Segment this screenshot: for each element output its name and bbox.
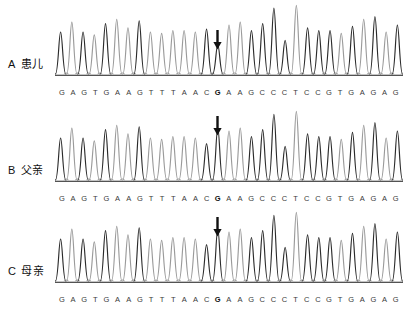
base-letter: C xyxy=(202,192,212,206)
panel-c-title: 母亲 xyxy=(21,265,44,278)
base-letter: A xyxy=(179,192,189,206)
chromatogram-panel-b: B父亲 GAGTGAAGTTTAACGAAGCCCTCCGTGAGAG xyxy=(0,106,416,212)
base-letter: T xyxy=(291,192,301,206)
base-letter: A xyxy=(235,86,245,100)
base-letter: T xyxy=(335,86,345,100)
base-letter: A xyxy=(124,192,134,206)
panel-c-label: C母亲 xyxy=(8,262,44,278)
base-letter: G xyxy=(135,192,145,206)
base-letter: G xyxy=(246,86,256,100)
base-letter: C xyxy=(268,86,278,100)
base-letter: A xyxy=(357,86,367,100)
base-letter: G xyxy=(213,293,223,307)
panel-a-title: 患儿 xyxy=(21,58,44,71)
base-letter: C xyxy=(302,293,312,307)
panel-a-letter: A xyxy=(8,58,16,70)
base-letter: G xyxy=(369,86,379,100)
panel-c-letter: C xyxy=(8,265,16,277)
base-letter: A xyxy=(224,86,234,100)
panel-c-base-sequence: GAGTGAAGTTTAACGAAGCCCTCCGTGAGAG xyxy=(55,293,403,307)
base-letter: G xyxy=(102,86,112,100)
base-letter: C xyxy=(280,192,290,206)
base-letter: A xyxy=(380,293,390,307)
base-letter: T xyxy=(168,86,178,100)
base-letter: C xyxy=(257,192,267,206)
base-letter: A xyxy=(357,192,367,206)
base-letter: G xyxy=(102,192,112,206)
base-letter: G xyxy=(346,293,356,307)
base-letter: G xyxy=(102,293,112,307)
base-letter: T xyxy=(168,192,178,206)
base-letter: C xyxy=(268,293,278,307)
base-letter: T xyxy=(146,293,156,307)
base-letter: T xyxy=(157,293,167,307)
base-letter: A xyxy=(68,192,78,206)
base-letter: C xyxy=(268,192,278,206)
base-letter: A xyxy=(179,293,189,307)
base-letter: A xyxy=(191,192,201,206)
base-letter: T xyxy=(90,86,100,100)
base-letter: A xyxy=(357,293,367,307)
panel-b-trace-svg xyxy=(55,106,403,186)
panel-c-trace xyxy=(55,207,403,287)
base-letter: A xyxy=(235,192,245,206)
base-letter: C xyxy=(280,86,290,100)
base-letter: A xyxy=(124,293,134,307)
base-letter: A xyxy=(224,293,234,307)
base-letter: A xyxy=(113,192,123,206)
panel-b-letter: B xyxy=(8,164,16,176)
base-letter: A xyxy=(68,293,78,307)
panel-a-trace xyxy=(55,0,403,80)
base-letter: C xyxy=(257,293,267,307)
base-letter: G xyxy=(246,293,256,307)
base-letter: T xyxy=(146,86,156,100)
panel-a-mutation-arrow-icon xyxy=(213,30,222,50)
base-letter: G xyxy=(391,86,401,100)
base-letter: G xyxy=(213,86,223,100)
panel-b-label: B父亲 xyxy=(8,161,44,177)
base-letter: G xyxy=(369,293,379,307)
base-letter: C xyxy=(313,192,323,206)
base-letter: G xyxy=(324,192,334,206)
base-letter: G xyxy=(135,293,145,307)
base-letter: G xyxy=(213,192,223,206)
base-letter: A xyxy=(224,192,234,206)
base-letter: C xyxy=(313,86,323,100)
base-letter: C xyxy=(313,293,323,307)
base-letter: A xyxy=(179,86,189,100)
panel-a-base-sequence: GAGTGAAGTTTAACGAAGCCCTCCGTGAGAG xyxy=(55,86,403,100)
base-letter: T xyxy=(157,192,167,206)
base-letter: T xyxy=(157,86,167,100)
chromatogram-panel-c: C母亲 GAGTGAAGTTTAACGAAGCCCTCCGTGAGAG xyxy=(0,207,416,313)
base-letter: A xyxy=(191,293,201,307)
base-letter: G xyxy=(391,293,401,307)
base-letter: G xyxy=(57,192,67,206)
base-letter: T xyxy=(146,192,156,206)
base-letter: A xyxy=(380,192,390,206)
base-letter: G xyxy=(346,192,356,206)
base-letter: G xyxy=(57,293,67,307)
base-letter: G xyxy=(391,192,401,206)
base-letter: C xyxy=(202,86,212,100)
base-letter: A xyxy=(124,86,134,100)
base-letter: C xyxy=(280,293,290,307)
base-letter: G xyxy=(324,293,334,307)
base-letter: T xyxy=(335,293,345,307)
base-letter: A xyxy=(191,86,201,100)
base-letter: T xyxy=(291,86,301,100)
panel-c-mutation-arrow-icon xyxy=(213,217,222,237)
sequencing-figure: A患儿 GAGTGAAGTTTAACGAAGCCCTCCGTGAGAG B父亲 … xyxy=(0,0,416,319)
base-letter: G xyxy=(135,86,145,100)
base-letter: T xyxy=(291,293,301,307)
base-letter: T xyxy=(90,192,100,206)
base-letter: G xyxy=(324,86,334,100)
panel-c-trace-svg xyxy=(55,207,403,287)
panel-a-trace-svg xyxy=(55,0,403,80)
base-letter: T xyxy=(335,192,345,206)
base-letter: G xyxy=(246,192,256,206)
base-letter: A xyxy=(113,86,123,100)
base-letter: G xyxy=(79,86,89,100)
panel-b-trace xyxy=(55,106,403,186)
base-letter: T xyxy=(168,293,178,307)
base-letter: A xyxy=(68,86,78,100)
